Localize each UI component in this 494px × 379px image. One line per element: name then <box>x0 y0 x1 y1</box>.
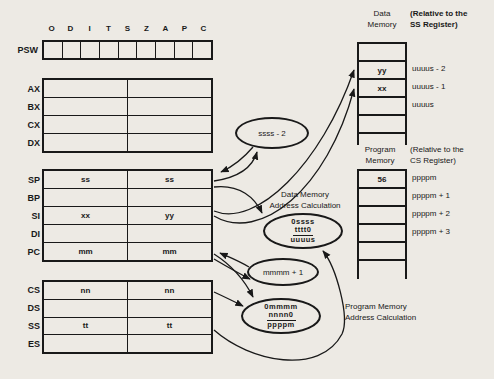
data-memory-cell-2: xx <box>359 78 405 96</box>
data-memory-note-line2: SS Register) <box>410 19 467 30</box>
program-memory-address-2: ppppm + 2 <box>412 205 450 223</box>
program-memory-cell-2 <box>359 205 405 223</box>
cx-high-cell <box>44 116 128 133</box>
es-high-cell <box>44 335 128 352</box>
program-memory-title-line1: Program <box>352 144 408 155</box>
register-row-ds: DS <box>44 299 211 317</box>
flag-letter-s: S <box>118 24 137 35</box>
register-label-cx: CX <box>8 120 40 130</box>
register-label-ds: DS <box>8 303 40 313</box>
program-address-calc-ellipse: 0mmmm nnnn0 ppppm <box>241 298 321 334</box>
data-memory-title-line2: Memory <box>357 19 407 30</box>
register-label-bp: BP <box>8 193 40 203</box>
sp-decrement-ellipse: ssss - 2 <box>235 117 309 149</box>
register-label-di: DI <box>8 229 40 239</box>
program-memory-cell-0: 56 <box>359 169 405 187</box>
data-memory-cell-4 <box>359 114 405 132</box>
pointer-register-block: SP ss ss BP SI xx yy DI PC mm mm <box>42 169 213 262</box>
program-memory-address-4 <box>412 241 450 259</box>
program-memory-ladder-tail <box>359 259 405 277</box>
program-memory-title: Program Memory <box>352 144 408 166</box>
data-memory-address-1: uuuus - 2 <box>412 60 445 78</box>
program-memory-cell-4 <box>359 241 405 259</box>
data-memory-address-3: uuuus <box>412 96 445 114</box>
psw-flag-cell <box>118 42 137 58</box>
register-row-si: SI xx yy <box>44 206 211 224</box>
data-memory-address-4 <box>412 114 445 132</box>
di-low-cell <box>128 225 211 242</box>
arrow-sp-to-decrement <box>214 152 257 181</box>
program-memory-address-0: ppppm <box>412 169 450 187</box>
data-address-calc-ellipse: 0ssss tttt0 uuuus <box>263 213 343 249</box>
pc-high-cell: mm <box>44 243 128 260</box>
dx-low-cell <box>128 134 211 151</box>
psw-flag-cell <box>192 42 211 58</box>
bp-low-cell <box>128 189 211 206</box>
data-memory-address-2: uuuus - 1 <box>412 78 445 96</box>
ss-high-cell: tt <box>44 318 128 335</box>
program-address-calc-label: Program Memory Address Calculation <box>345 301 416 323</box>
program-memory-addresses: ppppm ppppm + 1 ppppm + 2 ppppm + 3 <box>412 169 450 259</box>
flag-letter-a: A <box>156 24 175 35</box>
register-row-bp: BP <box>44 188 211 206</box>
ax-high-cell <box>44 80 128 97</box>
data-memory-cell-0 <box>359 42 405 60</box>
psw-register <box>42 40 213 60</box>
sp-high-cell: ss <box>44 171 128 188</box>
arrow-cs-to-program-addr-calc <box>214 292 243 306</box>
ds-low-cell <box>128 300 211 317</box>
register-label-si: SI <box>8 211 40 221</box>
program-memory-cell-1 <box>359 187 405 205</box>
register-row-ss: SS tt tt <box>44 317 211 335</box>
register-row-ax: AX <box>44 80 211 97</box>
data-memory-title-line1: Data <box>357 8 407 19</box>
data-memory-ladder-tail <box>359 132 405 143</box>
si-low-cell: yy <box>128 207 211 224</box>
di-high-cell <box>44 225 128 242</box>
psw-flag-cell <box>62 42 81 58</box>
data-memory-ladder: yy xx <box>357 42 407 145</box>
data-memory-note: (Relative to the SS Register) <box>410 8 467 30</box>
arrow-increment-to-pc <box>220 253 249 267</box>
register-memory-diagram: O D I T S Z A P C PSW AX BX CX <box>0 0 494 379</box>
flag-letter-i: I <box>80 24 99 35</box>
register-row-cx: CX <box>44 115 211 133</box>
psw-flag-cell <box>136 42 155 58</box>
program-memory-note-line1: (Relative to the <box>410 144 464 155</box>
ds-high-cell <box>44 300 128 317</box>
psw-flag-cell <box>99 42 118 58</box>
flag-letter-p: P <box>175 24 194 35</box>
data-address-calc-label: Data Memory Address Calculation <box>253 189 357 211</box>
data-memory-address-0 <box>412 42 445 60</box>
data-memory-cell-1: yy <box>359 60 405 78</box>
flag-letter-d: D <box>61 24 80 35</box>
register-label-cs: CS <box>8 285 40 295</box>
program-memory-address-1: ppppm + 1 <box>412 187 450 205</box>
program-address-calc-label-line2: Address Calculation <box>345 312 416 323</box>
psw-flag-cell <box>80 42 99 58</box>
program-memory-note: (Relative to the CS Register) <box>410 144 464 166</box>
sp-decrement-value: ssss - 2 <box>258 129 286 138</box>
dx-high-cell <box>44 134 128 151</box>
data-address-calc-label-line1: Data Memory <box>253 189 357 200</box>
register-label-ss: SS <box>8 321 40 331</box>
cs-low-cell: nn <box>128 282 211 299</box>
data-memory-cell-3 <box>359 96 405 114</box>
register-row-dx: DX <box>44 133 211 151</box>
register-row-sp: SP ss ss <box>44 171 211 188</box>
psw-flag-cell <box>174 42 193 58</box>
data-memory-addresses: uuuus - 2 uuuus - 1 uuuus <box>412 42 445 132</box>
sp-low-cell: ss <box>128 171 211 188</box>
psw-label: PSW <box>6 45 38 55</box>
register-row-cs: CS nn nn <box>44 282 211 299</box>
si-high-cell: xx <box>44 207 128 224</box>
register-label-dx: DX <box>8 138 40 148</box>
register-row-di: DI <box>44 224 211 242</box>
pc-increment-value: mmmm + 1 <box>263 268 303 277</box>
segment-register-block: CS nn nn DS SS tt tt ES <box>42 280 213 354</box>
cs-high-cell: nn <box>44 282 128 299</box>
psw-flag-cell <box>44 42 62 58</box>
flag-letter-c: C <box>194 24 213 35</box>
data-address-calc-label-line2: Address Calculation <box>253 200 357 211</box>
arrow-pc-to-program-addr-calc <box>214 254 253 297</box>
